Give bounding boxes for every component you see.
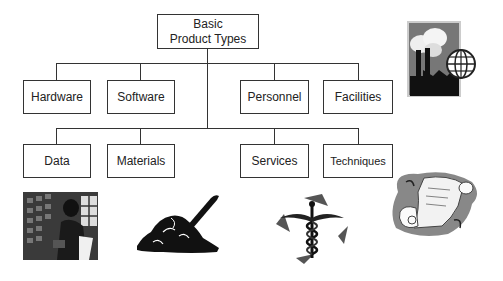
- node-label: Materials: [117, 154, 166, 169]
- row2-bus: [56, 128, 359, 129]
- factory-globe-icon: [405, 20, 477, 100]
- data-stub: [56, 128, 57, 144]
- services-stub: [274, 128, 275, 144]
- node-data: Data: [23, 144, 91, 178]
- node-label: Hardware: [31, 90, 83, 105]
- node-techniques: Techniques: [323, 144, 393, 178]
- caduceus-icon: [274, 192, 352, 264]
- hardware-stub: [56, 63, 57, 80]
- node-facilities: Facilities: [323, 80, 393, 114]
- node-label: Data: [44, 154, 69, 169]
- root-node: Basic Product Types: [157, 14, 259, 49]
- facilities-stub: [358, 63, 359, 80]
- materials-stub: [140, 128, 141, 144]
- data-terminal-icon: [23, 192, 98, 260]
- node-services: Services: [240, 144, 309, 178]
- node-materials: Materials: [107, 144, 175, 178]
- node-label: Facilities: [335, 90, 382, 105]
- root-label-line2: Product Types: [170, 32, 247, 47]
- techniques-stub: [358, 128, 359, 144]
- personnel-stub: [274, 63, 275, 80]
- node-label: Techniques: [330, 154, 386, 169]
- node-label: Personnel: [247, 90, 301, 105]
- node-label: Software: [117, 90, 164, 105]
- node-hardware: Hardware: [23, 80, 91, 114]
- node-personnel: Personnel: [240, 80, 309, 114]
- root-label-line1: Basic: [193, 17, 222, 32]
- row1-bus: [56, 63, 359, 64]
- root-stem: [207, 48, 208, 128]
- node-software: Software: [107, 80, 175, 114]
- scroll-icon: [388, 168, 482, 240]
- node-label: Services: [251, 154, 297, 169]
- shovel-dirt-icon: [133, 192, 223, 256]
- software-stub: [140, 63, 141, 80]
